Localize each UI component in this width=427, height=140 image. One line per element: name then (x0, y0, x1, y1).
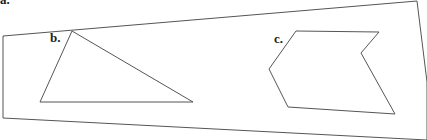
frame-polygon (3, 1, 427, 140)
hexagon-polygon (269, 31, 395, 114)
diagram-canvas: a. b. c. (0, 0, 427, 140)
label-a: a. (0, 0, 10, 7)
label-b: b. (50, 30, 60, 45)
label-c: c. (274, 31, 283, 46)
diagram-svg: a. b. c. (0, 0, 427, 140)
triangle-polygon (40, 31, 193, 102)
